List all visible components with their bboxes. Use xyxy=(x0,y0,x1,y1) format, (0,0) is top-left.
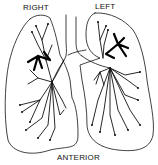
right-lung-outline xyxy=(5,15,78,153)
lungs-diagram xyxy=(0,0,158,165)
right-bronchial-tree xyxy=(20,24,66,140)
left-dark-segment xyxy=(106,34,128,58)
